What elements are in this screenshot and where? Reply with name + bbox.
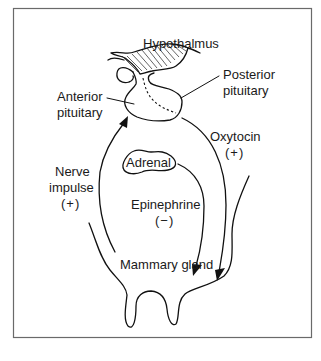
posterior-pituitary-label-line2: pituitary <box>223 83 269 98</box>
oxytocin-sign: (+) <box>225 145 244 160</box>
anterior-pituitary-label-line2: pituitary <box>57 105 103 120</box>
nerve-label-line2: impulse <box>49 180 94 195</box>
nerve-label-line1: Nerve <box>55 164 90 179</box>
oxytocin-label: Oxytocin <box>210 129 261 144</box>
epinephrine-label: Epinephrine <box>131 197 200 212</box>
mammary-gland-label: Mammary gland <box>120 257 213 272</box>
hypothalamus-label: Hypothalmus <box>143 36 219 51</box>
epinephrine-sign: (−) <box>155 213 174 228</box>
adrenal-label: Adrenal <box>126 155 171 170</box>
posterior-pituitary-label-line1: Posterior <box>223 67 276 82</box>
milk-ejection-diagram: Hypothalmus Posterior pituitary Anterior… <box>0 0 321 361</box>
anterior-pituitary-label-line1: Anterior <box>57 89 103 104</box>
nerve-sign: (+) <box>61 196 80 211</box>
